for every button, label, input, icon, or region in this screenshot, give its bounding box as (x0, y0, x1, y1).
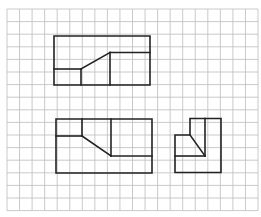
top-view-edge (81, 53, 110, 70)
front-view-edge (82, 136, 111, 156)
side-view-edge (190, 135, 205, 156)
top-view-outline (54, 36, 150, 85)
grid-paper-diagram (0, 0, 261, 217)
front-view (56, 119, 152, 173)
side-view (175, 119, 221, 173)
top-view (54, 36, 150, 85)
front-view-outline (56, 119, 152, 173)
projection-views (54, 36, 221, 173)
orthographic-projection-drawing (0, 0, 261, 217)
grid-lines (7, 9, 258, 211)
